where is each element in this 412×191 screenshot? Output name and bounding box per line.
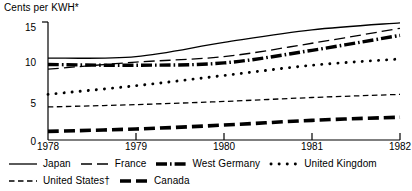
legend-label-france: France: [115, 158, 147, 169]
thick-dash-swatch: [119, 176, 149, 186]
legend-label-west-germany: West Germany: [192, 158, 260, 169]
chart-legend: Japan France West Germany United Kingdom: [8, 155, 408, 189]
series-group: [48, 23, 400, 132]
legend-row-1: Japan France West Germany United Kingdom: [8, 155, 408, 172]
dotted-swatch: [269, 159, 299, 169]
series-line-canada: [48, 117, 400, 131]
solid-line-swatch: [8, 159, 38, 169]
axis-frame: [42, 22, 400, 140]
short-dash-swatch: [8, 176, 38, 186]
legend-entry-united-kingdom[interactable]: United Kingdom: [269, 158, 377, 169]
line-chart: Cents per KWH* 15 10 5 0 1978 1979 1980 …: [0, 0, 412, 191]
legend-label-united-kingdom: United Kingdom: [304, 158, 377, 169]
long-dash-swatch: [80, 159, 110, 169]
thick-dash-dot-swatch: [155, 159, 187, 169]
series-line-united-states: [48, 94, 400, 107]
series-line-west-germany: [48, 35, 400, 65]
legend-entry-west-germany[interactable]: West Germany: [155, 158, 260, 169]
legend-label-japan: Japan: [43, 158, 71, 169]
legend-label-canada: Canada: [154, 175, 190, 186]
series-line-japan: [48, 23, 400, 58]
legend-entry-canada[interactable]: Canada: [119, 175, 190, 186]
legend-label-united-states: United States†: [43, 175, 110, 186]
legend-entry-united-states[interactable]: United States†: [8, 175, 110, 186]
plot-area: [0, 0, 412, 160]
legend-entry-japan[interactable]: Japan: [8, 158, 71, 169]
legend-entry-france[interactable]: France: [80, 158, 147, 169]
legend-row-2: United States† Canada: [8, 172, 408, 189]
